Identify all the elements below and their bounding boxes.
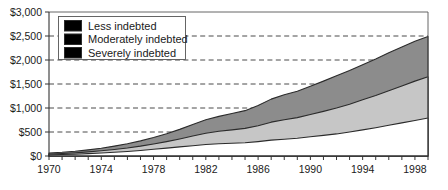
- y-axis-labels: $3,000$2,500$2,000$1,500$1,000$500$0: [10, 6, 42, 162]
- legend-label-moderately-indebted: Moderately indebted: [88, 33, 188, 45]
- legend-swatch-severely-indebted: [65, 48, 82, 59]
- x-tick-label-1978: 1978: [142, 163, 166, 175]
- x-tick-label-1998: 1998: [403, 163, 427, 175]
- x-axis-ticks: [49, 156, 428, 160]
- x-tick-label-1982: 1982: [194, 163, 218, 175]
- legend-swatch-less-indebted: [65, 21, 82, 32]
- x-axis-labels: 19701974197819821986199019941998: [37, 163, 426, 175]
- y-tick-label-3000: $3,000: [10, 6, 42, 18]
- x-tick-label-1974: 1974: [90, 163, 114, 175]
- legend-label-less-indebted: Less indebted: [88, 20, 157, 32]
- stacked-area-chart: $3,000$2,500$2,000$1,500$1,000$500$0 197…: [0, 0, 448, 190]
- y-tick-label-0: $0: [30, 150, 42, 162]
- y-tick-label-1500: $1,500: [10, 78, 42, 90]
- legend-item-severely-indebted: Severely indebted: [65, 47, 177, 59]
- chart-canvas: $3,000$2,500$2,000$1,500$1,000$500$0 197…: [0, 0, 448, 190]
- x-tick-label-1990: 1990: [299, 163, 323, 175]
- y-tick-label-1000: $1,000: [10, 102, 42, 114]
- x-tick-label-1970: 1970: [37, 163, 61, 175]
- y-axis-ticks: [45, 12, 49, 156]
- legend-label-severely-indebted: Severely indebted: [88, 47, 176, 59]
- chart-legend: Less indebted Moderately indebted Severe…: [59, 17, 188, 60]
- legend-item-less-indebted: Less indebted: [65, 20, 157, 32]
- y-tick-label-2000: $2,000: [10, 54, 42, 66]
- y-tick-label-2500: $2,500: [10, 30, 42, 42]
- x-tick-label-1986: 1986: [246, 163, 270, 175]
- legend-swatch-moderately-indebted: [65, 34, 82, 45]
- y-tick-label-500: $500: [19, 126, 43, 138]
- x-tick-label-1994: 1994: [351, 163, 375, 175]
